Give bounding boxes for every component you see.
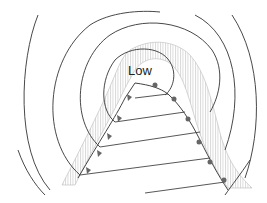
- weather-diagram: Low: [0, 0, 267, 203]
- isobar-4: [24, 15, 50, 190]
- precipitation-band: [62, 42, 252, 188]
- low-pressure-label: Low: [128, 63, 152, 78]
- isobar-3: [53, 11, 160, 175]
- isobar-5: [18, 150, 45, 195]
- isobar-4b: [232, 15, 256, 178]
